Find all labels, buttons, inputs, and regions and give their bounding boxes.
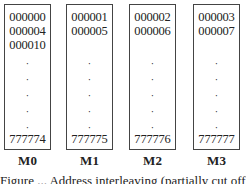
address-cell: 000003 bbox=[194, 11, 239, 24]
ellipsis-dot: · bbox=[67, 107, 112, 117]
bank-label-m0: M0 bbox=[4, 153, 51, 169]
ellipsis-dot: · bbox=[130, 91, 175, 101]
bank-label-m1: M1 bbox=[66, 153, 113, 169]
address-cell: 000000 bbox=[5, 11, 50, 24]
address-cell: 777774 bbox=[5, 133, 50, 146]
address-cell: 000004 bbox=[5, 25, 50, 38]
ellipsis-dot: · bbox=[130, 59, 175, 69]
ellipsis-dot: · bbox=[5, 75, 50, 85]
ellipsis-dot: · bbox=[130, 75, 175, 85]
ellipsis-dot: · bbox=[194, 107, 239, 117]
memory-bank-m3: 000003 000007 · · · · · 777777 bbox=[193, 4, 240, 150]
ellipsis-dot: · bbox=[67, 75, 112, 85]
figure-caption: Figure ... Address interleaving (partial… bbox=[0, 173, 246, 184]
ellipsis-dot: · bbox=[194, 75, 239, 85]
address-cell: 000001 bbox=[67, 11, 112, 24]
address-cell: 777775 bbox=[67, 133, 112, 146]
ellipsis-dot: · bbox=[5, 107, 50, 117]
address-cell: 000002 bbox=[130, 11, 175, 24]
bank-label-m3: M3 bbox=[193, 153, 240, 169]
address-cell: 000005 bbox=[67, 25, 112, 38]
memory-bank-m0: 000000 000004 000010 · · · · · 777774 bbox=[4, 4, 51, 150]
ellipsis-dot: · bbox=[67, 59, 112, 69]
memory-bank-m1: 000001 000005 · · · · · 777775 bbox=[66, 4, 113, 150]
address-cell: 777777 bbox=[194, 133, 239, 146]
bank-label-m2: M2 bbox=[129, 153, 176, 169]
address-cell: 777776 bbox=[130, 133, 175, 146]
address-cell: 000007 bbox=[194, 25, 239, 38]
ellipsis-dot: · bbox=[67, 91, 112, 101]
ellipsis-dot: · bbox=[5, 91, 50, 101]
ellipsis-dot: · bbox=[194, 59, 239, 69]
ellipsis-dot: · bbox=[194, 91, 239, 101]
ellipsis-dot: · bbox=[5, 59, 50, 69]
address-cell: 000006 bbox=[130, 25, 175, 38]
address-cell: 000010 bbox=[5, 39, 50, 52]
ellipsis-dot: · bbox=[130, 107, 175, 117]
memory-bank-m2: 000002 000006 · · · · · 777776 bbox=[129, 4, 176, 150]
